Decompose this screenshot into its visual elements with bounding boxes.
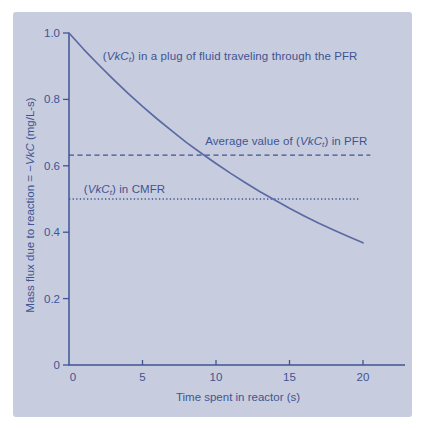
label-run: Average value of ( [205, 135, 300, 147]
x-tick-label: 15 [283, 371, 296, 383]
x-tick-label: 0 [70, 371, 76, 383]
x-tick-label: 5 [139, 371, 145, 383]
y-axis-title: Mass flux due to reaction = −VkC (mg/L-s… [24, 97, 36, 312]
label-run: VkC [24, 143, 36, 165]
x-axis-title: Time spent in reactor (s) [176, 391, 300, 403]
x-tick-label: 10 [210, 371, 223, 383]
label-run: ) in CMFR [112, 183, 165, 195]
y-tick-label: 1.0 [44, 27, 60, 39]
plot-svg: 00.20.40.60.81.005101520 [0, 0, 424, 428]
y-tick-label: 0.6 [44, 160, 60, 172]
label-run: ) in PFR [324, 135, 367, 147]
pfr-curve-annotation: (VkCt) in a plug of fluid traveling thro… [103, 50, 358, 64]
y-tick-label: 0 [54, 359, 60, 371]
label-run: (mg/L-s) [24, 97, 36, 143]
cmfr-annotation: (VkCt) in CMFR [84, 183, 166, 197]
x-tick-label: 20 [357, 371, 370, 383]
y-tick-label: 0.8 [44, 93, 60, 105]
figure-canvas: 00.20.40.60.81.005101520 (VkCt) in a plu… [0, 0, 424, 428]
y-tick-label: 0.2 [44, 293, 60, 305]
label-run: VkC [107, 50, 129, 62]
label-run: VkC [300, 135, 322, 147]
avg-pfr-annotation: Average value of (VkCt) in PFR [205, 135, 367, 149]
label-run: Mass flux due to reaction = − [24, 165, 36, 313]
y-tick-label: 0.4 [44, 226, 61, 238]
label-run: VkC [88, 183, 110, 195]
label-run: ) in a plug of fluid traveling through t… [131, 50, 357, 62]
